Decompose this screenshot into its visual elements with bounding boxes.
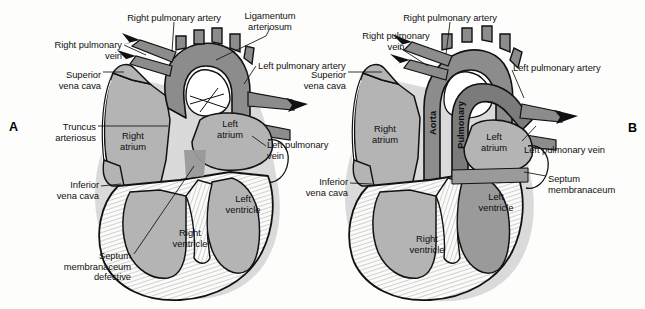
panel-a-branch-5	[244, 46, 254, 64]
panel-a-branch-1	[176, 36, 186, 50]
chamber-b-right-atrium: Right atrium	[372, 124, 398, 145]
vessel-label-pulmonary: Pulmonary	[456, 101, 466, 148]
panel-a-septal-defect	[184, 150, 206, 178]
label-b-left-pulmonary-vein: Left pulmonary vein	[524, 145, 605, 156]
panel-letter-b: B	[628, 121, 637, 135]
panel-a-branch-2	[194, 30, 204, 44]
chamber-b-left-ventricle: Left ventricle	[479, 192, 514, 213]
label-b-right-pulmonary-artery: Right pulmonary artery	[403, 13, 497, 24]
chamber-b-left-atrium: Left atrium	[481, 132, 507, 153]
label-b-left-pulmonary-artery: Left pulmonary artery	[513, 63, 601, 74]
label-b-superior-vena-cava: Superior vena cava	[304, 70, 346, 91]
panel-b-aortic-branch-3	[482, 26, 492, 42]
panel-letter-a: A	[9, 120, 18, 134]
label-a-right-pulmonary-artery: Right pulmonary artery	[127, 13, 221, 24]
chamber-a-left-atrium: Left atrium	[217, 119, 243, 140]
label-a-superior-vena-cava: Superior vena cava	[59, 70, 101, 91]
label-a-ligamentum-arteriosum: Ligamentum arteriosum	[244, 11, 295, 32]
panel-b-aortic-branch-4	[500, 34, 510, 52]
chamber-a-right-ventricle: Right ventricle	[173, 228, 208, 249]
label-a-inferior-vena-cava: Inferior vena cava	[57, 180, 99, 201]
label-b-septum-membranaceum: Septum membranaceum	[548, 174, 615, 195]
label-a-truncus-arteriosus: Truncus arteriosus	[55, 122, 96, 143]
label-b-inferior-vena-cava: Inferior vena cava	[306, 177, 348, 198]
panel-b-septum-membranaceum	[452, 168, 528, 184]
label-b-right-pulmonary-vein: Right pulmonary vein	[362, 31, 430, 52]
figure-root: A B Right pulmonary artery Ligamentum ar…	[0, 0, 645, 309]
label-a-left-pulmonary-vein: Left pulmonary vein	[267, 140, 328, 161]
label-a-right-pulmonary-vein: Right pulmonary vein	[54, 40, 122, 61]
vessel-label-aorta: Aorta	[428, 111, 438, 135]
label-a-septum-membranaceum-defective: Septum membranaceum defective	[64, 251, 131, 283]
panel-b-aortic-branch-2	[462, 28, 472, 42]
panel-a-arch-lumen	[186, 70, 230, 116]
chamber-a-left-ventricle: Left ventricle	[226, 194, 261, 215]
chamber-b-right-ventricle: Right ventricle	[410, 234, 445, 255]
panel-a-branch-3	[212, 28, 222, 44]
chamber-a-right-atrium: Right atrium	[120, 131, 146, 152]
